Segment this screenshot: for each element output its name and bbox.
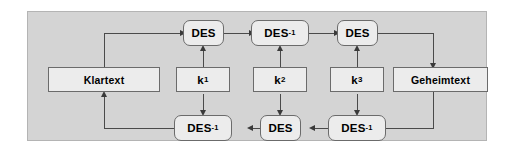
node-enc3[interactable]: DES <box>337 20 378 46</box>
node-dec2-label: DES <box>268 122 292 134</box>
node-enc1-label: DES <box>191 27 215 39</box>
node-dec1-label: DES <box>187 122 211 134</box>
node-dec1[interactable]: DES-1 <box>174 115 232 141</box>
node-plaintext-label: Klartext <box>84 74 125 86</box>
edge-enc3-to-ciphertext-horizontal <box>378 33 434 34</box>
edge-plaintext-to-enc1-horizontal <box>104 33 182 34</box>
edge-ciphertext-to-dec3-horizontal <box>378 128 434 129</box>
node-enc3-label: DES <box>345 27 369 39</box>
node-key2-label: k <box>274 74 281 86</box>
node-ciphertext[interactable]: Geheimtext <box>393 67 488 92</box>
node-enc1[interactable]: DES <box>183 20 224 46</box>
edge-key2-to-enc2 <box>280 49 281 67</box>
edge-enc3-to-ciphertext-vertical <box>433 33 434 67</box>
node-enc2-label: DES <box>264 27 288 39</box>
node-key1[interactable]: k1 <box>176 67 230 92</box>
arrowhead-dec2-input <box>309 125 315 131</box>
edge-enc1-to-enc2 <box>224 33 251 34</box>
node-enc2[interactable]: DES-1 <box>251 20 309 46</box>
node-key3[interactable]: k3 <box>330 67 384 92</box>
node-ciphertext-label: Geheimtext <box>411 74 470 86</box>
diagram-root: DES DES-1 DES Klartext k1 k2 k3 Geheimte… <box>0 0 510 155</box>
node-key1-label: k <box>197 74 204 86</box>
edge-key1-to-enc1 <box>203 49 204 67</box>
edge-key3-to-enc3 <box>357 49 358 67</box>
node-dec3-label: DES <box>341 122 365 134</box>
arrowhead-dec1-input <box>247 125 253 131</box>
node-plaintext[interactable]: Klartext <box>48 67 160 92</box>
node-key2[interactable]: k2 <box>253 67 307 92</box>
node-dec2[interactable]: DES <box>260 115 301 141</box>
edge-dec1-to-plaintext-vertical <box>104 96 105 128</box>
node-dec3[interactable]: DES-1 <box>328 115 386 141</box>
node-key3-label: k <box>351 74 358 86</box>
diagram-panel: DES DES-1 DES Klartext k1 k2 k3 Geheimte… <box>27 11 487 141</box>
edge-ciphertext-to-dec3-vertical <box>433 92 434 128</box>
edge-enc2-to-enc3 <box>309 33 336 34</box>
